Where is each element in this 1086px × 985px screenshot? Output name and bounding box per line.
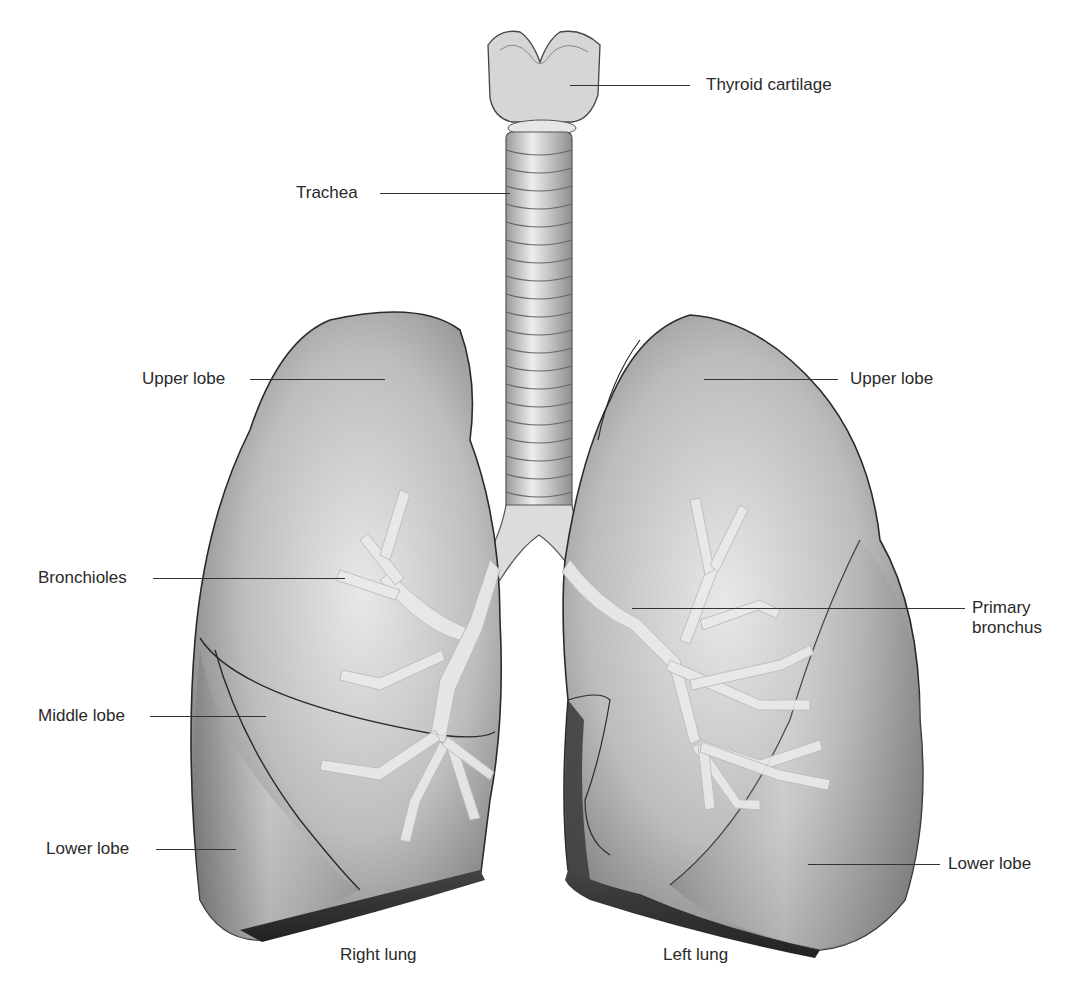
primary-bronchus-label-line1: Primary: [972, 598, 1031, 618]
middle-lobe-label: Middle lobe: [38, 706, 125, 726]
right-lung-caption: Right lung: [340, 945, 417, 965]
trachea-label: Trachea: [296, 183, 358, 203]
left-lung: [562, 315, 923, 958]
left-upper-lobe-label: Upper lobe: [850, 369, 933, 389]
lung-anatomy-illustration: [0, 0, 1086, 985]
bronchioles-leader: [153, 578, 345, 579]
bronchioles-label: Bronchioles: [38, 568, 127, 588]
right-lower-lobe-leader: [156, 849, 236, 850]
thyroid-cartilage: [488, 31, 600, 136]
left-lung-caption: Left lung: [663, 945, 728, 965]
right-lung: [191, 312, 501, 942]
left-lower-lobe-label: Lower lobe: [948, 854, 1031, 874]
trachea-leader: [380, 193, 510, 194]
middle-lobe-leader: [150, 716, 266, 717]
right-upper-lobe-label: Upper lobe: [142, 369, 225, 389]
right-lower-lobe-label: Lower lobe: [46, 839, 129, 859]
primary-bronchus-label-line2: bronchus: [972, 618, 1042, 638]
thyroid-cartilage-leader: [570, 85, 690, 86]
left-lower-lobe-leader: [808, 864, 940, 865]
right-upper-lobe-leader: [250, 379, 385, 380]
left-upper-lobe-leader: [704, 379, 838, 380]
thyroid-cartilage-label: Thyroid cartilage: [706, 75, 832, 95]
primary-bronchus-leader: [632, 608, 965, 609]
